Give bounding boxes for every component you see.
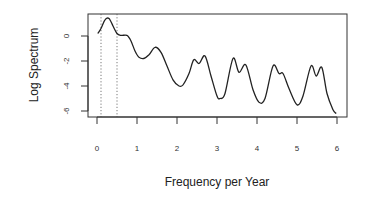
x-tick-label: 3 [215,144,220,153]
x-tick-label: 5 [295,144,300,153]
x-axis: 0123456 [95,117,340,153]
y-tick-label: -6 [62,107,71,115]
x-tick-label: 0 [95,144,100,153]
x-tick-label: 1 [135,144,140,153]
y-axis-title: Log Spectrum [27,28,41,103]
y-tick-label: 0 [62,33,71,38]
plot-frame [88,14,347,117]
x-axis-title: Frequency per Year [165,175,270,189]
y-tick-label: -4 [62,82,71,90]
y-tick-label: -2 [62,57,71,65]
y-axis: 0-2-4-6 [62,33,88,114]
log-spectrum-chart: 0123456 0-2-4-6 Frequency per Year Log S… [0,0,366,198]
x-tick-label: 2 [175,144,180,153]
x-tick-label: 6 [335,144,340,153]
spectrum-line [98,18,336,113]
x-tick-label: 4 [255,144,260,153]
